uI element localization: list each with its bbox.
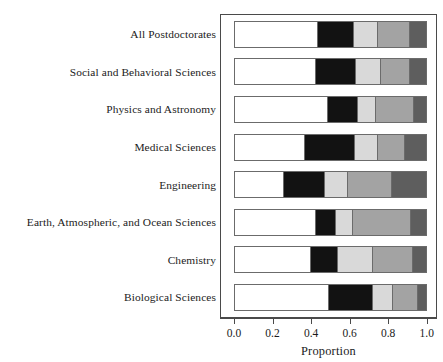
- x-axis-line: [220, 318, 437, 319]
- bar-segment: [404, 134, 427, 161]
- x-tick-mark: [350, 318, 351, 324]
- category-label: All Postdoctorates: [0, 28, 216, 40]
- bar-segment: [335, 209, 352, 236]
- bar-segment: [372, 246, 412, 273]
- x-tick-mark: [234, 318, 235, 324]
- bar-segment: [234, 209, 315, 236]
- bar-segment: [315, 58, 354, 85]
- x-tick-label: 0.6: [330, 327, 370, 340]
- bar-segment: [377, 134, 404, 161]
- bar-row: [234, 58, 427, 85]
- bar-row: [234, 134, 427, 161]
- bar-segment: [413, 96, 426, 123]
- category-axis-labels: All PostdoctoratesSocial and Behavioral …: [0, 14, 216, 318]
- bar-segment: [328, 284, 371, 311]
- bar-segment: [353, 21, 377, 48]
- category-label: Physics and Astronomy: [0, 103, 216, 115]
- bar-segment: [324, 171, 347, 198]
- bar-segment: [234, 246, 310, 273]
- bar-segment: [327, 96, 357, 123]
- bar-segment: [375, 96, 413, 123]
- bar-segment: [412, 246, 427, 273]
- x-tick-label: 1.0: [407, 327, 443, 340]
- x-tick-mark: [273, 318, 274, 324]
- x-tick-mark: [311, 318, 312, 324]
- bar-segment: [377, 21, 410, 48]
- bar-segment: [337, 246, 372, 273]
- bar-segment: [234, 171, 283, 198]
- bars-layer: [220, 14, 437, 318]
- bar-row: [234, 246, 427, 273]
- category-label: Engineering: [0, 179, 216, 191]
- bar-segment: [357, 96, 375, 123]
- category-label: Chemistry: [0, 254, 216, 266]
- x-tick-label: 0.2: [253, 327, 293, 340]
- bar-segment: [234, 58, 315, 85]
- bar-row: [234, 21, 427, 48]
- bar-segment: [310, 246, 337, 273]
- x-tick-label: 0.0: [214, 327, 254, 340]
- bar-row: [234, 96, 427, 123]
- bar-segment: [352, 209, 410, 236]
- category-label: Medical Sciences: [0, 141, 216, 153]
- x-tick-label: 0.8: [368, 327, 408, 340]
- category-label: Social and Behavioral Sciences: [0, 66, 216, 78]
- bar-segment: [409, 58, 427, 85]
- bar-row: [234, 284, 427, 311]
- bar-segment: [234, 21, 317, 48]
- bar-segment: [234, 134, 304, 161]
- bar-segment: [409, 21, 426, 48]
- bar-segment: [234, 284, 328, 311]
- bar-segment: [354, 134, 377, 161]
- x-axis-title: Proportion: [220, 344, 437, 358]
- bar-segment: [372, 284, 392, 311]
- bar-segment: [283, 171, 324, 198]
- bar-segment: [392, 284, 418, 311]
- x-tick-label: 0.4: [291, 327, 331, 340]
- x-tick-mark: [427, 318, 428, 324]
- bar-segment: [380, 58, 409, 85]
- bar-row: [234, 209, 427, 236]
- x-tick-mark: [388, 318, 389, 324]
- bar-segment: [347, 171, 391, 198]
- bar-segment: [304, 134, 354, 161]
- bar-row: [234, 171, 427, 198]
- bar-segment: [317, 21, 352, 48]
- bar-segment: [234, 96, 327, 123]
- category-label: Biological Sciences: [0, 291, 216, 303]
- stacked-bar-chart: All PostdoctoratesSocial and Behavioral …: [0, 0, 443, 362]
- bar-segment: [315, 209, 335, 236]
- bar-segment: [417, 284, 426, 311]
- category-label: Earth, Atmospheric, and Ocean Sciences: [0, 216, 216, 228]
- bar-segment: [355, 58, 380, 85]
- bar-segment: [391, 171, 427, 198]
- bar-segment: [410, 209, 427, 236]
